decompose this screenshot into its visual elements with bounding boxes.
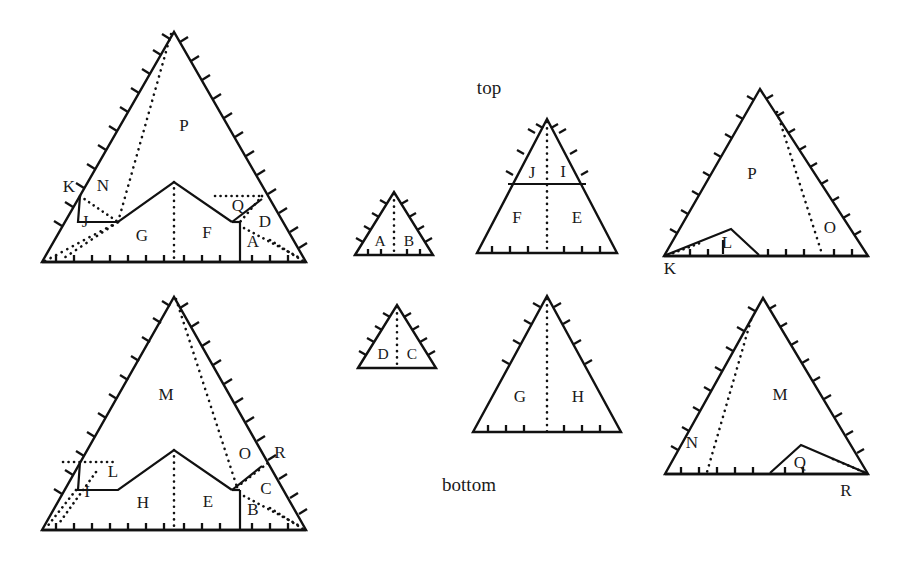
ticks-left-slant-jife xyxy=(506,124,543,175)
region-label-O-top-right: O xyxy=(824,218,836,237)
region-label-Q-top-left: Q xyxy=(232,196,244,215)
panel-medium-triangle-gh: G H xyxy=(473,296,621,432)
region-label-K-top-right: K xyxy=(664,259,677,278)
panel-small-triangle-ab: A B xyxy=(355,192,433,255)
panel-top-left: P K N J G F Q D A xyxy=(42,32,307,262)
region-label-B-bottom-left: B xyxy=(247,500,258,519)
ticks-left-slant-gh xyxy=(502,303,540,364)
dotted-fold-n-bottom-right xyxy=(707,320,751,472)
triangle-dissection-figure: P K N J G F Q D A xyxy=(0,0,908,567)
region-label-L-bottom-left: L xyxy=(108,462,118,481)
region-label-B-small: B xyxy=(404,232,414,249)
region-label-N-bottom-right: N xyxy=(686,433,698,452)
ticks-left-slant-bottom-right xyxy=(671,307,755,450)
ticks-left-slant-top-right xyxy=(670,96,754,233)
outer-triangle-outline-top-right xyxy=(664,89,868,256)
ticks-right-slant-top-right xyxy=(766,95,861,235)
ticks-right-slant-bottom-right xyxy=(769,305,864,453)
region-label-O-bottom-left: O xyxy=(239,444,251,463)
figure-canvas: P K N J G F Q D A xyxy=(0,0,908,567)
region-label-E-medium: E xyxy=(572,208,582,227)
region-label-L-top-right: L xyxy=(722,233,732,252)
region-label-D-small: D xyxy=(377,345,388,362)
region-label-I-bottom-left: I xyxy=(84,482,90,501)
panel-small-triangle-dc: D C xyxy=(358,305,436,368)
region-label-P-top-right: P xyxy=(747,164,756,183)
ticks-right-slant-bottom-left xyxy=(180,303,307,514)
region-label-C-bottom-left: C xyxy=(260,479,271,498)
region-label-F-medium: F xyxy=(512,208,521,227)
o-upper-right-fold-bottom-left xyxy=(232,466,262,490)
region-label-K-top-left: K xyxy=(63,177,76,196)
region-label-D-top-left: D xyxy=(259,212,271,231)
panel-top-right: P O L K xyxy=(664,89,868,278)
region-label-M-bottom-right: M xyxy=(772,385,787,404)
region-label-Q-bottom-right: Q xyxy=(794,453,806,472)
dotted-fold-o-top-right xyxy=(777,112,822,254)
dotted-fold-apex-left-top-left xyxy=(118,34,171,222)
l-triangle-solid-top-right xyxy=(666,229,759,255)
region-label-N-top-left: N xyxy=(97,176,109,195)
caption-bottom: bottom xyxy=(442,474,496,495)
region-label-C-small: C xyxy=(407,345,417,362)
region-label-R-bottom-left: R xyxy=(274,443,286,462)
dotted-c-lower-bottom-left xyxy=(270,508,303,529)
region-label-P-top-left: P xyxy=(179,116,188,135)
panel-medium-triangle-jife: J I F E xyxy=(477,119,617,253)
region-label-J-top-left: J xyxy=(82,212,89,231)
region-label-G-medium: G xyxy=(514,387,526,406)
region-label-G-top-left: G xyxy=(136,226,148,245)
panel-bottom-right: M N Q R xyxy=(665,298,868,500)
dotted-fold-left-lower-top-left xyxy=(64,222,118,258)
region-label-M-bottom-left: M xyxy=(158,385,173,404)
ridge-solid-bottom-left xyxy=(78,450,232,490)
region-label-H-bottom-left: H xyxy=(137,493,149,512)
caption-top: top xyxy=(477,77,501,98)
region-label-A-top-left: A xyxy=(247,232,260,251)
panel-bottom-left: M L I H E O R C B xyxy=(42,297,307,530)
region-label-E-bottom-left: E xyxy=(203,492,213,511)
region-label-I-medium: I xyxy=(560,162,566,181)
ticks-right-slant-jife xyxy=(551,124,588,175)
region-label-F-top-left: F xyxy=(202,223,211,242)
region-label-H-medium: H xyxy=(572,387,584,406)
dotted-fold-k-top-right xyxy=(668,243,700,255)
region-label-J-medium: J xyxy=(529,163,536,182)
region-label-A-small: A xyxy=(374,232,386,249)
ticks-right-slant-gh xyxy=(554,303,592,364)
region-label-R-bottom-right: R xyxy=(840,481,852,500)
